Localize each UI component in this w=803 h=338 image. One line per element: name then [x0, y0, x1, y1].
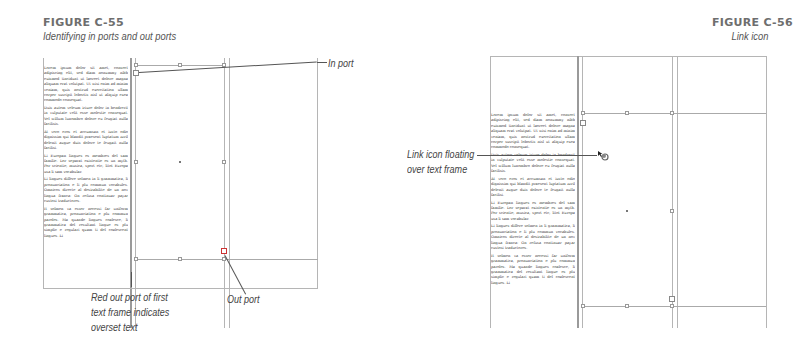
paragraph: Li lingues differe solmen in li grammati…: [491, 224, 575, 251]
callout-in-port: In port: [328, 56, 354, 71]
callout-line: Link icon floating: [407, 147, 474, 162]
callout-overset: Red out port of first text frame indicat…: [91, 290, 169, 335]
paragraph: Duis autem veleum iriure dolor in hendre…: [44, 106, 128, 128]
resize-handle[interactable]: [670, 304, 674, 308]
resize-handle[interactable]: [134, 257, 138, 261]
figure-caption: Link icon: [731, 30, 768, 42]
page-margin-guide: [766, 56, 767, 328]
link-icon-leader-line: [477, 155, 597, 156]
paragraph: Li Europan lingues es membres del sam fa…: [491, 201, 575, 223]
frame-center-point: [179, 161, 181, 163]
resize-handle[interactable]: [581, 111, 585, 115]
resize-handle[interactable]: [134, 63, 138, 67]
frame-center-point: [626, 210, 628, 212]
figure-label: FIGURE C-56: [712, 16, 793, 29]
paragraph: Li lingues differe solmen in li grammati…: [44, 177, 128, 204]
out-port[interactable]: [221, 248, 227, 254]
in-port-leader-line: [139, 61, 317, 73]
figure-caption: Identifying in ports and out ports: [43, 30, 176, 42]
column-guide: [677, 56, 678, 328]
callout-out-port: Out port: [227, 292, 260, 307]
in-port[interactable]: [580, 120, 586, 126]
paragraph: At vero eros et accumsan et iusto odio d…: [44, 130, 128, 152]
callout-line: Red out port of first: [91, 290, 169, 305]
link-icon: [597, 148, 609, 160]
paragraph: Lorem ipsum dolor sit amet, consect adip…: [44, 66, 128, 104]
paragraph: Li Europan lingues es membres del sam fa…: [44, 154, 128, 176]
paragraph: Lorem ipsum dolor sit amet, consect adip…: [491, 113, 575, 151]
text-frame-1[interactable]: Lorem ipsum dolor sit amet, consect adip…: [44, 66, 128, 271]
in-port-leader-tail: [317, 62, 327, 63]
paragraph: At vero eros et accumsan et iusto odio d…: [491, 177, 575, 199]
column-gutter-guide: [577, 56, 579, 328]
resize-handle[interactable]: [625, 111, 629, 115]
resize-handle[interactable]: [670, 209, 674, 213]
column-guide: [672, 56, 673, 328]
callout-line: overset text: [91, 320, 169, 335]
resize-handle[interactable]: [625, 304, 629, 308]
resize-handle[interactable]: [134, 160, 138, 164]
callout-line: over text frame: [407, 162, 474, 177]
top-margin-guide: [490, 56, 767, 57]
text-frame-2-bottom: [583, 306, 766, 307]
bottom-margin-guide: [43, 288, 318, 289]
resize-handle[interactable]: [581, 304, 585, 308]
page-margin-guide: [317, 58, 318, 288]
resize-handle[interactable]: [670, 111, 674, 115]
figure-label: FIGURE C-55: [43, 16, 124, 29]
paragraph: It solmen va esser necessi far uniform g…: [44, 207, 128, 239]
resize-handle[interactable]: [178, 257, 182, 261]
callout-link-icon: Link icon floating over text frame: [407, 147, 474, 177]
resize-handle[interactable]: [178, 63, 182, 67]
paragraph: Duis autem veleum iriure dolor in hendre…: [491, 153, 575, 175]
column-guide: [582, 56, 583, 328]
paragraph: It solmen va esser necessi far uniform g…: [491, 254, 575, 286]
text-frame-1[interactable]: Lorem ipsum dolor sit amet, consect adip…: [491, 113, 575, 318]
callout-line: text frame indicates: [91, 305, 169, 320]
out-port[interactable]: [669, 296, 675, 302]
text-frame-2-top: [583, 113, 766, 114]
resize-handle[interactable]: [222, 160, 226, 164]
overset-leader-line: [131, 272, 132, 287]
